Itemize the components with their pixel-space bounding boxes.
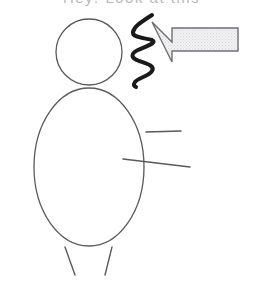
drawing-canvas: Hey! Look at this [0, 0, 263, 288]
left-pointing-arrow [152, 22, 238, 62]
figure-arm-upper [146, 131, 181, 132]
figure-leg-right [105, 247, 112, 275]
figure-arm-lower [123, 159, 190, 167]
stick-figure-group [34, 19, 190, 275]
arrow-group [152, 22, 238, 62]
scribble-zigzag-icon [132, 15, 153, 87]
figure-body [34, 88, 144, 246]
illustration-svg [0, 0, 263, 288]
figure-head [56, 19, 122, 85]
figure-leg-left [65, 247, 75, 275]
